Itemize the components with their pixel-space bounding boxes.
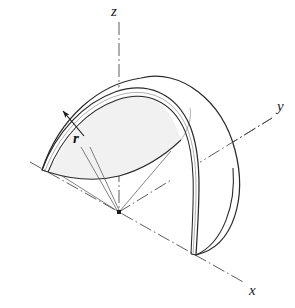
axis-label-x: x [249,283,256,298]
origin-marker [117,210,121,214]
axis-label-y: y [277,99,284,114]
figure-hemispherical-shell: z y x r [0,0,295,308]
dimension-label-r: r [73,131,79,146]
axis-label-z: z [111,4,117,19]
diagram-canvas [0,0,295,308]
